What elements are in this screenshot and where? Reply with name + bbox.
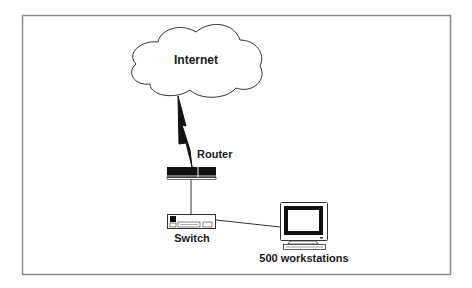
computer-monitor-icon	[281, 203, 328, 250]
workstations-label: 500 workstations	[259, 252, 348, 264]
wan-link-lightning	[178, 96, 192, 167]
router-label: Router	[197, 148, 233, 160]
internet-label: Internet	[174, 53, 218, 67]
internet-node: Internet	[132, 24, 263, 97]
switch-icon	[168, 215, 216, 229]
router-node: Router	[167, 148, 233, 180]
switch-workstation-link	[216, 220, 280, 227]
switch-node: Switch	[168, 215, 216, 245]
network-diagram: Internet Router Switch	[0, 0, 472, 288]
switch-label: Switch	[174, 232, 210, 244]
router-icon	[167, 167, 216, 180]
workstations-node: 500 workstations	[259, 203, 348, 265]
